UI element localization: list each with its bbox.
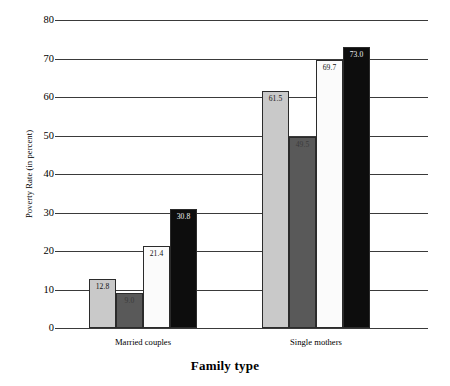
gridline: [62, 251, 428, 252]
bar: 69.7: [316, 60, 343, 328]
bar: 61.5: [262, 91, 289, 328]
gridline: [62, 136, 428, 137]
y-axis-tick-mark: [55, 97, 62, 98]
y-axis-tick-mark: [55, 20, 62, 21]
y-axis-tick-mark: [55, 328, 62, 329]
bar-value-label: 21.4: [144, 250, 169, 258]
y-axis-tick-label: 60: [12, 92, 54, 103]
bar: 73.0: [343, 47, 370, 328]
bar-value-label: 30.8: [171, 213, 196, 221]
y-axis-tick-mark: [55, 251, 62, 252]
bar-chart: Poverty Rate (in percent) 01020304050607…: [0, 0, 450, 386]
plot-area: 12.89.021.430.861.549.569.773.0: [62, 20, 428, 328]
y-axis-tick-mark: [55, 136, 62, 137]
y-axis-tick-mark: [55, 174, 62, 175]
gridline: [62, 213, 428, 214]
x-axis-title: Family type: [0, 358, 450, 374]
y-axis-tick-label: 70: [12, 54, 54, 65]
y-axis-tick-mark: [55, 290, 62, 291]
bar-value-label: 12.8: [90, 283, 115, 291]
gridline: [62, 290, 428, 291]
x-axis-category-label: Married couples: [83, 338, 203, 347]
gridline: [62, 20, 428, 21]
bar-value-label: 49.5: [290, 141, 315, 149]
bar: 12.8: [89, 279, 116, 328]
y-axis-tick-label: 40: [12, 169, 54, 180]
y-axis-tick-label: 20: [12, 246, 54, 257]
gridline: [62, 59, 428, 60]
bar: 30.8: [170, 209, 197, 328]
gridline: [62, 174, 428, 175]
bar: 49.5: [289, 137, 316, 328]
bar-value-label: 73.0: [344, 51, 369, 59]
bar: 9.0: [116, 293, 143, 328]
y-axis-tick-mark: [55, 59, 62, 60]
bar-value-label: 61.5: [263, 95, 288, 103]
bar: 21.4: [143, 246, 170, 328]
gridline: [62, 97, 428, 98]
bar-value-label: 69.7: [317, 64, 342, 72]
x-axis-category-label: Single mothers: [256, 338, 376, 347]
y-axis-tick-label: 30: [12, 208, 54, 219]
gridline: [62, 328, 428, 329]
bar-value-label: 9.0: [117, 297, 142, 305]
y-axis-tick-label: 50: [12, 131, 54, 142]
y-axis-tick-label: 80: [12, 15, 54, 26]
y-axis-tick-label: 10: [12, 285, 54, 296]
y-axis-tick-label: 0: [12, 323, 54, 334]
y-axis-tick-mark: [55, 213, 62, 214]
